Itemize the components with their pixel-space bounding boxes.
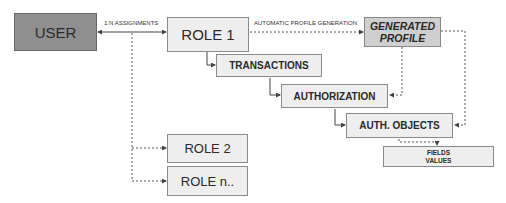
fields-values-node: FIELDS VALUES [383, 146, 494, 167]
role2-label: ROLE 2 [184, 141, 230, 156]
assignments-label: 1:N ASSIGNMENTS [104, 20, 158, 26]
generated-profile-line1: GENERATED [370, 20, 435, 32]
fields-label: FIELDS [427, 149, 450, 157]
user-node: USER [14, 13, 97, 51]
transactions-node: TRANSACTIONS [216, 54, 322, 77]
generated-profile-line2: PROFILE [380, 32, 426, 44]
values-label: VALUES [426, 157, 452, 165]
generated-profile-node: GENERATED PROFILE [364, 17, 441, 47]
auth-objects-label: AUTH. OBJECTS [359, 120, 440, 131]
role1-label: ROLE 1 [181, 26, 234, 43]
profile-generation-label: AUTOMATIC PROFILE GENERATION [254, 20, 357, 26]
role1-node: ROLE 1 [167, 17, 249, 52]
role2-node: ROLE 2 [167, 134, 248, 163]
user-label: USER [35, 24, 77, 41]
rolen-node: ROLE n.. [167, 166, 248, 196]
authorization-label: AUTHORIZATION [293, 91, 375, 102]
transactions-label: TRANSACTIONS [229, 60, 308, 71]
authorization-node: AUTHORIZATION [281, 84, 388, 108]
rolen-label: ROLE n.. [181, 174, 234, 189]
auth-objects-node: AUTH. OBJECTS [346, 113, 453, 138]
